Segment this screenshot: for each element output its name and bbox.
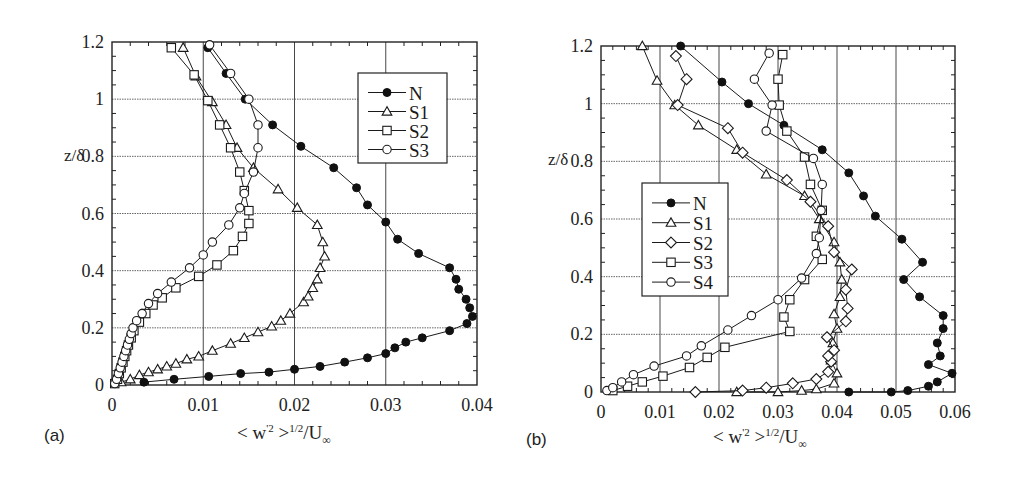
panel-label-a: (a) — [44, 426, 65, 446]
y-tick-label: 0 — [584, 382, 593, 402]
legend-label: S3 — [693, 252, 713, 273]
x-tick-label: 0 — [108, 395, 117, 415]
legend-label: S2 — [693, 233, 713, 254]
x-tick-label: 0.01 — [644, 402, 676, 422]
x-tick-label: 0.03 — [370, 395, 402, 415]
legend-a: NS1S2S3 — [358, 73, 447, 163]
y-tick-label: 1.2 — [571, 36, 594, 56]
series-s1 — [116, 43, 329, 386]
legend-b: NS1S2S3S4 — [642, 183, 728, 296]
y-tick-label: 0 — [95, 375, 104, 395]
x-tick-label: 0.01 — [188, 395, 220, 415]
legend-label: N — [693, 193, 707, 214]
y-tick-label: 0.4 — [82, 261, 105, 281]
y-tick-label: 1 — [584, 94, 593, 114]
legend-label: S2 — [409, 121, 429, 142]
x-axis-label-b: < w'2 >1/2/U∞ — [713, 426, 807, 452]
plot-a: 00.010.020.030.0400.20.40.60.811.2NS1S2S… — [82, 32, 493, 415]
x-tick-label: 0.02 — [279, 395, 311, 415]
y-tick-label: 0.2 — [571, 324, 594, 344]
x-tick-label: 0 — [597, 402, 606, 422]
y-tick-label: 0.4 — [571, 267, 594, 287]
y-tick-label: 1 — [95, 89, 104, 109]
x-tick-label: 0.02 — [703, 402, 735, 422]
x-tick-label: 0.03 — [762, 402, 794, 422]
y-tick-label: 0.2 — [82, 318, 105, 338]
legend-label: S4 — [693, 272, 714, 293]
chart-a: 00.010.020.030.0400.20.40.60.811.2NS1S2S… — [0, 0, 1018, 488]
y-tick-label: 0.8 — [82, 146, 105, 166]
x-axis-label-a: < w'2 >1/2/U∞ — [237, 422, 331, 448]
y-tick-label: 1.2 — [82, 32, 105, 52]
series-s3 — [111, 41, 263, 388]
x-tick-label: 0.04 — [461, 395, 493, 415]
y-tick-label: 0.6 — [571, 209, 594, 229]
y-axis-label-b: z/δ — [548, 150, 568, 170]
figure: 00.010.020.030.0400.20.40.60.811.2NS1S2S… — [0, 0, 1018, 488]
legend-label: S3 — [409, 140, 429, 161]
x-tick-label: 0.04 — [821, 402, 853, 422]
x-tick-label: 0.05 — [880, 402, 912, 422]
legend-label: S1 — [693, 213, 713, 234]
y-tick-label: 0.8 — [571, 151, 594, 171]
legend-label: N — [409, 83, 423, 104]
y-tick-label: 0.6 — [82, 204, 105, 224]
x-tick-label: 0.06 — [939, 402, 971, 422]
y-axis-label-a: z/δ — [64, 146, 84, 166]
plot-b: 00.010.020.030.040.050.0600.20.40.60.811… — [571, 36, 971, 422]
panel-label-b: (b) — [526, 430, 547, 450]
legend-label: S1 — [409, 102, 429, 123]
